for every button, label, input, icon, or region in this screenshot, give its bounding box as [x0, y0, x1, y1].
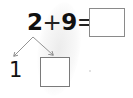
plus-sign: +	[43, 9, 62, 35]
known-part-number: 1	[9, 58, 22, 82]
sum-answer-box[interactable]	[89, 8, 125, 37]
speck	[89, 70, 91, 72]
arrow-left-icon	[14, 37, 33, 56]
addend-2: 9	[61, 9, 77, 35]
equation: 2+9=	[27, 8, 96, 36]
addend-1: 2	[27, 9, 43, 35]
unknown-part-box[interactable]	[40, 57, 70, 87]
